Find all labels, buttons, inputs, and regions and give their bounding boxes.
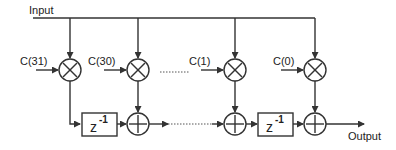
output-label: Output — [348, 130, 381, 142]
multiplier-0 — [304, 59, 326, 81]
adder-1 — [224, 113, 246, 135]
coef-label-30: C(30) — [88, 55, 116, 67]
delay-block-1: z -1 — [82, 113, 117, 136]
fir-filter-diagram: Input C(31) C(30) C(1) C(0) z -1 — [0, 0, 396, 150]
coef-label-31: C(31) — [20, 55, 48, 67]
adder-30 — [127, 113, 149, 135]
mult31-to-delay1 — [70, 81, 80, 124]
svg-text:z: z — [90, 119, 97, 135]
svg-text:z: z — [266, 119, 273, 135]
delay-block-2: z -1 — [258, 113, 293, 136]
coef-label-1: C(1) — [189, 55, 210, 67]
multiplier-30 — [127, 59, 149, 81]
svg-text:-1: -1 — [99, 114, 108, 125]
multiplier-1 — [224, 59, 246, 81]
adder-0 — [304, 113, 326, 135]
svg-text:-1: -1 — [275, 114, 284, 125]
multiplier-31 — [59, 59, 81, 81]
coef-label-0: C(0) — [273, 55, 294, 67]
input-label: Input — [29, 4, 53, 16]
